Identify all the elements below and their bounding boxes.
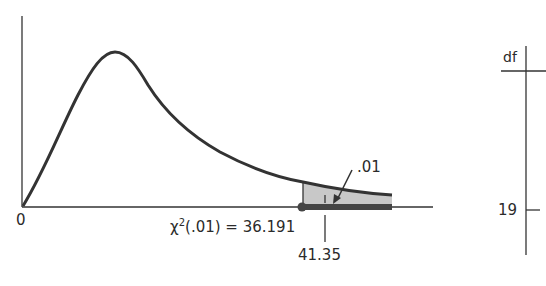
tail-area-label: .01 (357, 160, 381, 175)
chi-superscript: 2 (179, 217, 185, 228)
density-curve (23, 52, 392, 206)
observed-value-label: 41.35 (298, 248, 341, 263)
critical-value-text: (.01) = 36.191 (185, 218, 295, 236)
chi-square-chart (0, 0, 546, 286)
critical-value-label: χ2(.01) = 36.191 (170, 220, 295, 235)
rejection-region-endpoint (298, 203, 307, 212)
chi-symbol: χ (170, 218, 179, 236)
origin-label: 0 (16, 213, 26, 228)
df-tick-label: 19 (498, 203, 517, 218)
df-header-label: df (503, 50, 517, 64)
